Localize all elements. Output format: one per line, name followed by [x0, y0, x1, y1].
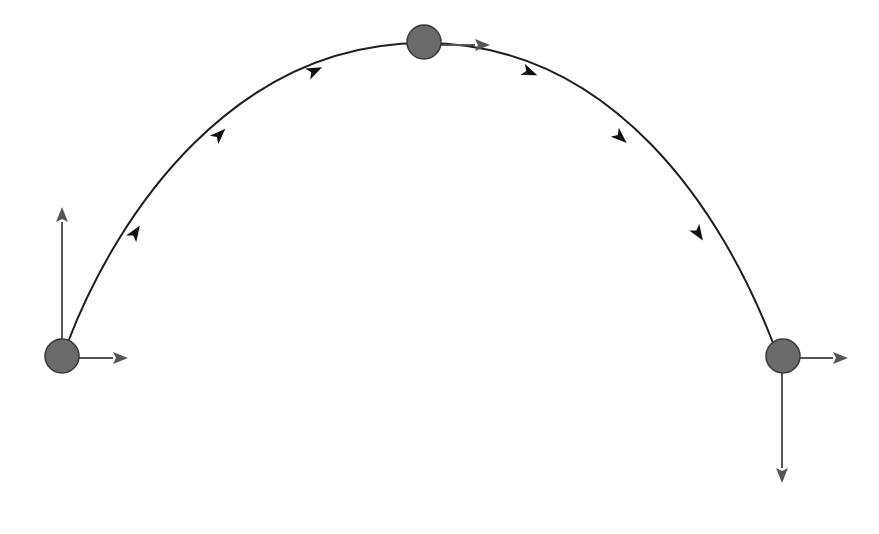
vector-arrowhead-icon [56, 207, 68, 222]
projectile-diagram [0, 0, 879, 534]
velocity-vectors [56, 39, 848, 483]
landing-position-ball [766, 339, 800, 373]
direction-arrow-icon [305, 62, 325, 80]
direction-arrow-icon [126, 222, 145, 242]
trajectory-curve [68, 43, 773, 343]
vector-arrowhead-icon [833, 352, 848, 364]
direction-arrow-icon [210, 124, 230, 144]
apex-position-ball [407, 25, 441, 59]
projectile-positions [45, 25, 800, 373]
direction-arrow-icon [520, 64, 539, 81]
trajectory-direction-markers [126, 62, 708, 244]
direction-arrow-icon [689, 224, 708, 244]
direction-arrow-icon [611, 128, 631, 148]
launch-position-ball [45, 339, 79, 373]
vector-arrowhead-icon [776, 468, 788, 483]
vector-arrowhead-icon [113, 352, 128, 364]
